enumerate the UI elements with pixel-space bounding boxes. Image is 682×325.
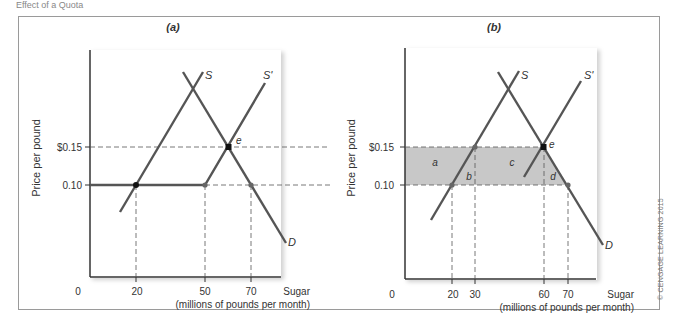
area-label-d: d — [550, 171, 556, 182]
x-tick-30-b: 30 — [469, 289, 481, 300]
equilibrium-e-a — [226, 144, 232, 150]
copyright-notice: © CENGAGE LEARNING 2015 — [657, 198, 664, 300]
x-tick-50-a: 50 — [199, 286, 211, 297]
area-label-a: a — [432, 157, 438, 168]
x-tick-70-a: 70 — [245, 286, 257, 297]
point-50-010-a — [202, 182, 207, 187]
label-d-a: D — [288, 236, 296, 248]
point-70-010-b — [565, 182, 570, 187]
point-30-015-b — [472, 144, 477, 149]
shaded-region-abcd — [405, 147, 568, 185]
panel-a-title: (a) — [166, 21, 180, 33]
panel-b: (b) — [345, 21, 635, 313]
origin-label-a: 0 — [75, 286, 81, 297]
x-tick-60-b: 60 — [538, 289, 550, 300]
plot-area-a — [89, 50, 281, 278]
label-s-a: S — [205, 69, 213, 81]
x-tick-20-b: 20 — [447, 289, 459, 300]
equilibrium-e-b — [541, 144, 547, 150]
y-tick-010-b: 0.10 — [375, 180, 395, 191]
x-tick-20-a: 20 — [131, 286, 143, 297]
point-70-010-a — [248, 182, 253, 187]
panel-a: (a) S — [30, 21, 330, 310]
label-s-b: S — [521, 69, 529, 81]
x-tick-70-b: 70 — [562, 289, 574, 300]
y-axis-label-b: Price per pound — [345, 119, 357, 197]
point-20-010-a — [133, 182, 139, 188]
label-e-a: e — [236, 135, 242, 146]
x-axis-label-a: Sugar — [283, 286, 310, 297]
area-label-b: b — [466, 171, 472, 182]
panel-b-title: (b) — [487, 21, 501, 33]
label-s-prime-a: S' — [263, 69, 273, 81]
x-axis-units-b: (millions of pounds per month) — [499, 302, 634, 313]
point-20-010-b — [449, 182, 454, 187]
x-axis-units-a: (millions of pounds per month) — [175, 299, 310, 310]
origin-label-b: 0 — [389, 289, 395, 300]
label-d-b: D — [605, 239, 613, 251]
label-e-b: e — [549, 139, 555, 150]
area-label-c: c — [510, 157, 515, 168]
quota-charts: (a) S — [0, 0, 682, 325]
y-tick-015-a: $0.15 — [57, 142, 82, 153]
y-axis-label-a: Price per pound — [30, 119, 42, 197]
x-axis-label-b: Sugar — [607, 289, 634, 300]
label-s-prime-b: S' — [584, 69, 594, 81]
y-tick-015-b: $0.15 — [369, 142, 394, 153]
y-tick-010-a: 0.10 — [63, 180, 83, 191]
